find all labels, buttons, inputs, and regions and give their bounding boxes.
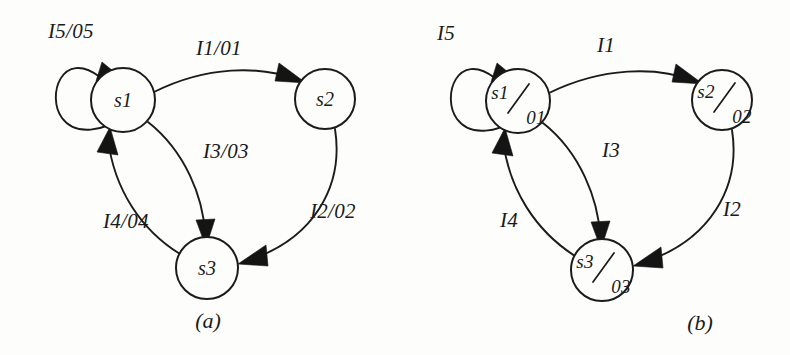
caption-a: (a): [195, 308, 221, 333]
edge-label-b-s2-s3: I2: [722, 197, 741, 221]
figure-canvas: s1 s2 s3 I5/05 I1/01 I2/02 I3/03 I4/04 (…: [0, 0, 790, 355]
panel-a: s1 s2 s3 I5/05 I1/01 I2/02 I3/03 I4/04 (…: [47, 19, 356, 333]
edge-label-b-s3-s1: I4: [499, 208, 518, 232]
state-diagram-svg: s1 s2 s3 I5/05 I1/01 I2/02 I3/03 I4/04 (…: [0, 0, 790, 355]
arrowhead-b-s2-s3: [633, 247, 663, 268]
node-b-s2-state-label: s2: [697, 81, 715, 102]
node-a-s1-label: s1: [114, 89, 132, 111]
edge-label-b-s1-s2: I1: [596, 33, 615, 57]
edge-a-s1-s3-path: [148, 122, 205, 233]
caption-b: (b): [687, 310, 713, 335]
edge-a-s3-s1-path: [108, 139, 180, 254]
edge-label-b-s1-s3: I3: [601, 138, 620, 162]
node-b-s3-state-label: s3: [576, 251, 593, 272]
node-b-s3-output-label: 03: [611, 276, 630, 297]
node-a-s3-label: s3: [198, 257, 216, 279]
edge-a-s2-s3-path: [246, 129, 337, 261]
panel-b: s1 01 s2 02 s3 03 I5 I1 I2 I3 I4 (b): [436, 21, 752, 335]
edge-label-a-self-s1: I5/05: [47, 19, 94, 43]
edge-b-s3-s1-path: [503, 140, 575, 256]
edge-label-a-s2-s3: I2/02: [309, 199, 356, 223]
node-a-s2-label: s2: [316, 88, 334, 110]
node-b-s1-state-label: s1: [491, 82, 508, 103]
edge-label-a-s1-s3: I3/03: [202, 139, 249, 163]
edge-label-b-self-s1: I5: [436, 21, 455, 45]
edge-b-s1-s3-path: [543, 123, 600, 235]
edge-label-a-s1-s2: I1/01: [195, 36, 242, 60]
edge-b-s2-s3-path: [641, 130, 734, 263]
node-b-s1-output-label: 01: [526, 107, 545, 128]
node-b-s2-output-label: 02: [732, 106, 752, 127]
edge-label-a-s3-s1: I4/04: [102, 209, 149, 233]
arrowhead-a-s2-s3: [238, 245, 268, 266]
